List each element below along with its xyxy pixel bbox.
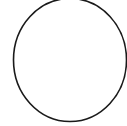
- canvas: [0, 0, 127, 126]
- ellipse-outline: [14, 0, 127, 122]
